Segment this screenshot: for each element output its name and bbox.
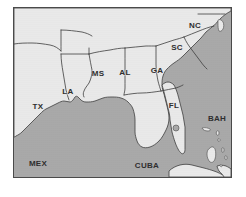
label-cuba: CUBA xyxy=(135,161,159,170)
label-mex: MEX xyxy=(29,159,48,168)
bahamas-island-eleuthera xyxy=(222,148,224,153)
label-la: LA xyxy=(62,87,73,96)
label-fl: FL xyxy=(169,101,179,110)
bahamas-island-small-a xyxy=(218,139,220,142)
lake-okeechobee xyxy=(173,125,179,131)
outer-banks-island xyxy=(218,20,224,32)
bahamas-island-andros xyxy=(207,147,216,162)
label-ms: MS xyxy=(92,69,105,78)
label-bah: BAH xyxy=(208,114,226,123)
bahamas-island-abaco xyxy=(216,131,219,136)
bahamas-island-small-c xyxy=(220,165,222,167)
label-sc: SC xyxy=(171,43,183,52)
bahamas-island-small-b xyxy=(225,156,227,160)
map-figure: TX LA MS AL GA FL SC NC MEX CUBA BAH xyxy=(0,0,246,197)
label-al: AL xyxy=(119,68,130,77)
label-ga: GA xyxy=(151,66,164,75)
label-tx: TX xyxy=(33,102,44,111)
map-frame: TX LA MS AL GA FL SC NC MEX CUBA BAH xyxy=(13,7,232,178)
map-canvas: TX LA MS AL GA FL SC NC MEX CUBA BAH xyxy=(14,8,231,177)
label-nc: NC xyxy=(189,21,201,30)
